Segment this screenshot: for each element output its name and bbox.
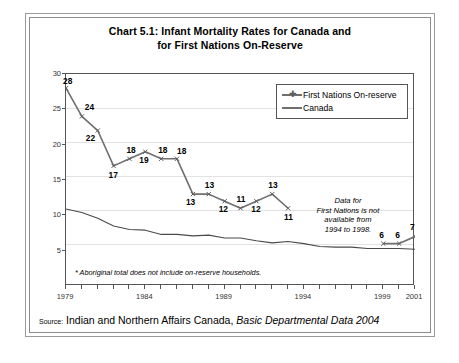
x-tick-mark — [366, 285, 367, 289]
x-tick-mark — [65, 285, 66, 289]
page-title: Chart 5.1: Infant Mortality Rates for Ca… — [40, 24, 420, 52]
x-tick-label: 1984 — [124, 292, 164, 301]
y-tick-mark — [62, 214, 65, 215]
x-tick-mark — [144, 285, 145, 289]
data-label: 22 — [86, 133, 95, 143]
x-tick-mark — [176, 285, 177, 289]
y-tick-mark — [62, 108, 65, 109]
x-tick-label: 1994 — [283, 292, 323, 301]
y-tick-label: 5 — [39, 246, 61, 255]
data-label: 28 — [63, 76, 72, 86]
x-tick-mark — [208, 285, 209, 289]
x-tick-mark — [97, 285, 98, 289]
data-label: 7 — [410, 222, 415, 232]
y-tick-label: 10 — [39, 210, 61, 219]
x-tick-mark — [398, 285, 399, 289]
data-label: 12 — [219, 204, 228, 214]
data-label: 18 — [126, 145, 135, 155]
x-tick-mark — [224, 285, 225, 289]
x-tick-mark — [303, 285, 304, 289]
y-tick-mark — [62, 250, 65, 251]
x-tick-mark — [271, 285, 272, 289]
gap-annotation: Data for First Nations is not available … — [300, 196, 396, 234]
data-label: 24 — [85, 102, 94, 112]
legend-item-first-nations: ✚ First Nations On-reserve — [281, 88, 403, 101]
x-tick-label: 2001 — [394, 292, 434, 301]
y-tick-mark — [62, 73, 65, 74]
x-tick-mark — [113, 285, 114, 289]
data-label: 11 — [237, 194, 246, 204]
data-point-marker — [286, 206, 290, 210]
x-tick-label: 1989 — [204, 292, 244, 301]
data-label: 12 — [251, 204, 260, 214]
y-tick-label: 25 — [39, 104, 61, 113]
y-tick-label: 15 — [39, 175, 61, 184]
x-tick-mark — [382, 285, 383, 289]
x-tick-mark — [192, 285, 193, 289]
y-tick-label: 20 — [39, 140, 61, 149]
x-tick-mark — [128, 285, 129, 289]
x-tick-mark — [335, 285, 336, 289]
data-label: 19 — [139, 155, 148, 165]
y-tick-mark — [62, 179, 65, 180]
annotation-line-3: available from — [300, 215, 396, 225]
x-tick-mark — [319, 285, 320, 289]
annotation-line-4: 1994 to 1998. — [300, 225, 396, 235]
chart-title-line-1: Chart 5.1: Infant Mortality Rates for Ca… — [40, 24, 420, 38]
footnote: * Aboriginal total does not include on-r… — [75, 268, 261, 277]
screenshot-page: Chart 5.1: Infant Mortality Rates for Ca… — [0, 0, 459, 363]
legend: ✚ First Nations On-reserve Canada — [276, 84, 408, 119]
annotation-line-1: Data for — [300, 196, 396, 206]
line-swatch-icon — [281, 102, 303, 113]
data-label: 13 — [268, 180, 277, 190]
x-tick-mark — [287, 285, 288, 289]
data-label: 11 — [284, 212, 293, 222]
x-tick-mark — [160, 285, 161, 289]
y-tick-label: 30 — [39, 69, 61, 78]
source-publication: Basic Departmental Data 2004 — [236, 314, 379, 326]
source-note: Source: Indian and Northern Affairs Cana… — [39, 314, 379, 326]
legend-label: Canada — [303, 103, 333, 113]
chart-title-line-2: for First Nations On-Reserve — [40, 38, 420, 52]
cross-marker-icon: ✚ — [281, 89, 303, 100]
data-label: 18 — [158, 145, 167, 155]
legend-label: First Nations On-reserve — [303, 90, 397, 100]
data-label: 13 — [205, 180, 214, 190]
x-tick-label: 1979 — [45, 292, 85, 301]
x-tick-mark — [414, 285, 415, 289]
source-label: Source: — [39, 318, 63, 325]
data-label: 17 — [109, 170, 118, 180]
source-agency: Indian and Northern Affairs Canada, — [66, 314, 233, 326]
data-label: 13 — [186, 197, 195, 207]
legend-item-canada: Canada — [281, 101, 403, 114]
x-tick-mark — [255, 285, 256, 289]
x-tick-mark — [351, 285, 352, 289]
x-tick-mark — [81, 285, 82, 289]
data-label: 18 — [177, 146, 186, 156]
x-tick-mark — [240, 285, 241, 289]
y-tick-mark — [62, 144, 65, 145]
annotation-line-2: First Nations is not — [300, 206, 396, 216]
